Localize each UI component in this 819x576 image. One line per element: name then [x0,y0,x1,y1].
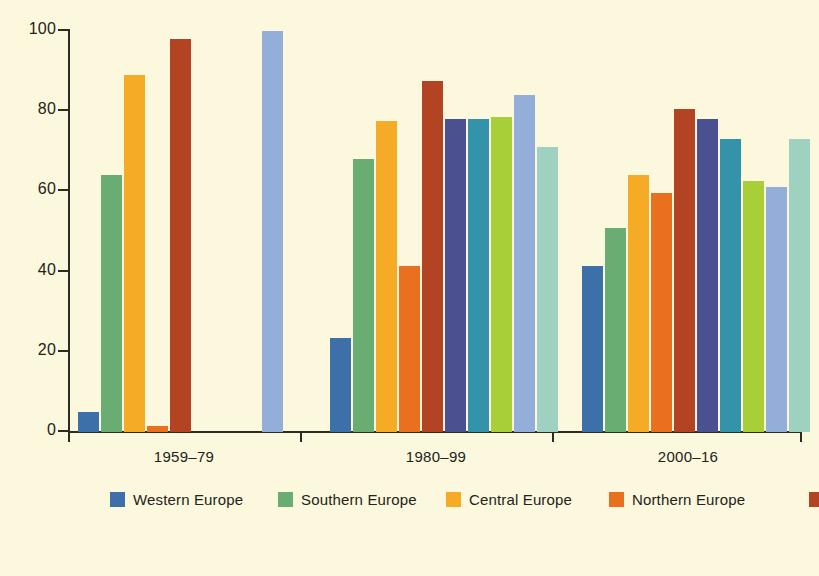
bar [537,147,558,432]
bar [170,39,191,432]
legend-item: Northern Europe [609,492,809,507]
x-axis-group-label: 1980–99 [330,448,542,465]
bar [124,75,145,432]
legend-item: Western Balkans [809,492,819,507]
bar [743,181,764,432]
bar [262,31,283,432]
bar [376,121,397,432]
bar [491,117,512,432]
legend-swatch-icon [110,492,125,507]
y-axis-tick-label: 40 [10,261,56,279]
legend-swatch-icon [278,492,293,507]
legend-label: Southern Europe [301,492,417,507]
bar [651,193,672,432]
bar [766,187,787,432]
x-axis-group-label: 1959–79 [78,448,290,465]
bar [674,109,695,432]
bar [78,412,99,432]
legend-swatch-icon [809,492,819,507]
bar [514,95,535,432]
x-axis-tick [552,432,554,442]
legend-label: Western Europe [133,492,243,507]
y-axis-tick-labels: 020406080100 [0,0,56,576]
legend-item: Central Europe [446,492,609,507]
legend-label: Northern Europe [632,492,745,507]
bar [697,119,718,432]
bar [445,119,466,432]
legend-item: Southern Europe [278,492,446,507]
bar [789,139,810,432]
bar [628,175,649,432]
y-axis-tick-label: 60 [10,180,56,198]
bar-group [330,30,558,432]
y-axis-tick-label: 0 [10,421,56,439]
bar [147,426,168,432]
bar [399,266,420,432]
plot-area [68,30,800,432]
bar-group [582,30,810,432]
y-axis-tick-label: 80 [10,100,56,118]
bar [582,266,603,432]
chart-legend: Western EuropeSouthern EuropeCentral Eur… [110,486,810,512]
bar-chart-figure: 020406080100 1959–791980–992000–16 Weste… [0,0,819,576]
legend-swatch-icon [446,492,461,507]
x-axis-group-label: 2000–16 [582,448,794,465]
bar [422,81,443,432]
x-axis-tick [68,432,70,442]
x-axis-tick [300,432,302,442]
y-axis-tick-label: 100 [10,20,56,38]
bar [720,139,741,432]
bar [605,228,626,433]
bar [353,159,374,432]
bar-group [78,30,306,432]
legend-label: Central Europe [469,492,572,507]
bar [330,338,351,432]
bar [468,119,489,432]
bar [101,175,122,432]
legend-item: Western Europe [110,492,278,507]
x-axis-tick [800,432,802,442]
y-axis-tick-label: 20 [10,341,56,359]
legend-swatch-icon [609,492,624,507]
